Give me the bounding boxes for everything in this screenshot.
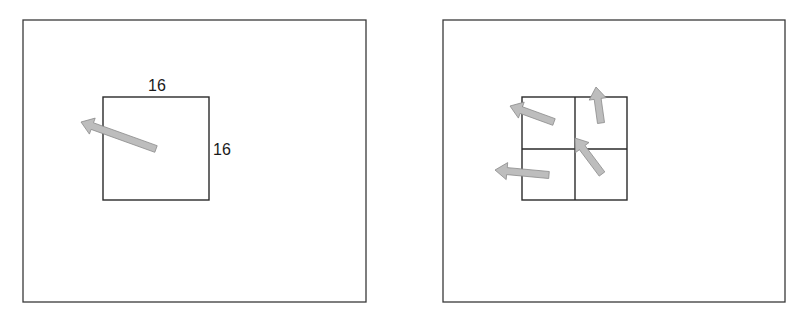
motion-vector-arrow-icon-bottom-right	[575, 138, 605, 176]
block-width-label: 16	[148, 77, 166, 94]
motion-vector-arrow-icon-top-left	[510, 102, 555, 125]
right-panel	[443, 20, 785, 302]
figure-canvas: 16 16	[0, 0, 798, 318]
left-panel: 16 16	[23, 20, 366, 302]
motion-vector-arrow-icon-top-right	[589, 87, 606, 124]
block-height-label: 16	[213, 141, 231, 158]
left-frame	[23, 20, 366, 302]
motion-vector-arrow-icon	[81, 118, 157, 152]
right-frame	[443, 20, 785, 302]
